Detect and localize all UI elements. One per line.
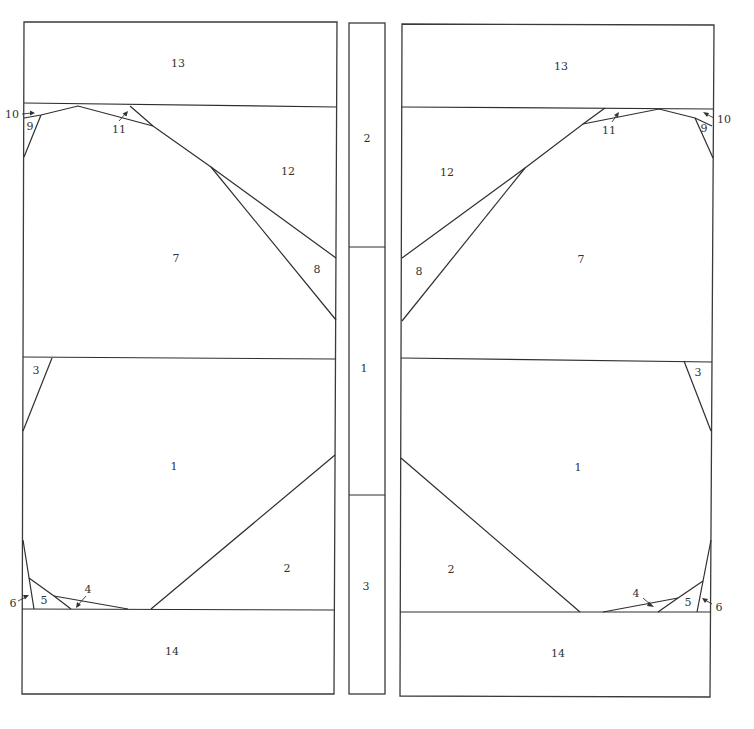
left-label-4: 4 [85, 583, 92, 596]
pattern-diagram: 13 12 11 10 9 8 7 3 1 2 4 5 6 14 [0, 0, 754, 729]
right-label-8: 8 [416, 265, 423, 278]
middle-strip: 2 1 3 [349, 23, 385, 694]
right-label-7: 7 [578, 253, 585, 266]
left-label-1: 1 [171, 460, 178, 473]
right-label-6: 6 [716, 601, 723, 614]
middle-label-2: 2 [364, 132, 371, 145]
left-label-12: 12 [281, 165, 295, 178]
left-label-14: 14 [165, 645, 179, 658]
right-label-13: 13 [554, 60, 568, 73]
left-label-8: 8 [314, 263, 321, 276]
left-label-7: 7 [173, 252, 180, 265]
right-label-2: 2 [448, 563, 455, 576]
middle-label-1: 1 [361, 362, 368, 375]
left-panel: 13 12 11 10 9 8 7 3 1 2 4 5 6 14 [5, 22, 337, 694]
left-label-5: 5 [41, 594, 48, 607]
right-label-11: 11 [602, 124, 616, 137]
right-label-12: 12 [440, 166, 454, 179]
left-label-2: 2 [284, 562, 291, 575]
left-label-13: 13 [171, 57, 185, 70]
left-label-11: 11 [112, 123, 126, 136]
right-label-14: 14 [551, 647, 565, 660]
middle-strip-frame [349, 23, 385, 694]
right-label-1: 1 [575, 461, 582, 474]
right-label-10: 10 [717, 113, 731, 126]
right-label-4: 4 [633, 587, 640, 600]
left-label-9: 9 [27, 120, 34, 133]
right-label-3: 3 [695, 366, 702, 379]
left-label-6: 6 [10, 597, 17, 610]
right-label-5: 5 [685, 596, 692, 609]
left-label-3: 3 [33, 364, 40, 377]
right-label-9: 9 [701, 122, 708, 135]
middle-label-3: 3 [363, 580, 370, 593]
left-label-10: 10 [5, 108, 19, 121]
right-panel: 13 12 11 10 9 8 7 3 1 2 4 5 6 14 [400, 24, 731, 697]
